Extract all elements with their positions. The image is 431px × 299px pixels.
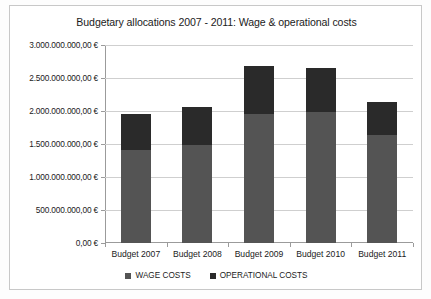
y-axis-label: 0,00 €: [76, 238, 98, 248]
y-axis-label: 500.000.000,00 €: [36, 205, 98, 215]
bar-segment-wage-costs[interactable]: [121, 150, 151, 243]
chart-legend: WAGE COSTS OPERATIONAL COSTS: [10, 271, 423, 280]
bar-segment-operational-costs[interactable]: [306, 68, 336, 112]
x-axis-tick: [167, 243, 168, 247]
legend-label-operational-costs: OPERATIONAL COSTS: [220, 271, 308, 280]
x-axis-label: Budget 2009: [235, 249, 284, 259]
chart-page: Budgetary allocations 2007 - 2011: Wage …: [0, 0, 431, 299]
y-axis-label: 1.500.000.000,00 €: [29, 139, 98, 149]
y-axis-tick: [101, 78, 105, 79]
x-axis-label: Budget 2007: [111, 249, 160, 259]
legend-item-wage-costs: WAGE COSTS: [125, 271, 190, 280]
bar-segment-wage-costs[interactable]: [182, 145, 212, 243]
y-axis-tick: [101, 144, 105, 145]
legend-item-operational-costs: OPERATIONAL COSTS: [210, 271, 308, 280]
gridline: [105, 45, 413, 46]
bar-segment-wage-costs[interactable]: [367, 135, 397, 243]
y-axis-tick: [101, 210, 105, 211]
y-axis-tick: [101, 45, 105, 46]
y-axis-tick: [101, 177, 105, 178]
plot-area: 0,00 €500.000.000,00 €1.000.000.000,00 €…: [105, 45, 413, 243]
bar-segment-operational-costs[interactable]: [182, 107, 212, 145]
x-axis-tick: [228, 243, 229, 247]
bar-segment-operational-costs[interactable]: [121, 114, 151, 150]
chart-frame: Budgetary allocations 2007 - 2011: Wage …: [9, 5, 422, 290]
bar-segment-operational-costs[interactable]: [367, 102, 397, 135]
x-axis-tick: [290, 243, 291, 247]
x-axis-tick: [351, 243, 352, 247]
y-axis-label: 2.500.000.000,00 €: [29, 73, 98, 83]
bar-segment-operational-costs[interactable]: [244, 66, 274, 114]
legend-swatch-wage-costs: [125, 273, 131, 279]
x-axis-label: Budget 2008: [173, 249, 222, 259]
y-axis-label: 1.000.000.000,00 €: [29, 172, 98, 182]
x-axis-tick: [413, 243, 414, 247]
x-axis-label: Budget 2010: [296, 249, 345, 259]
x-axis-tick: [105, 243, 106, 247]
legend-swatch-operational-costs: [210, 273, 216, 279]
y-axis-label: 2.000.000.000,00 €: [29, 106, 98, 116]
y-axis-label: 3.000.000.000,00 €: [29, 40, 98, 50]
bar-segment-wage-costs[interactable]: [244, 114, 274, 243]
bar-segment-wage-costs[interactable]: [306, 112, 336, 243]
chart-title: Budgetary allocations 2007 - 2011: Wage …: [10, 16, 423, 28]
x-axis-label: Budget 2011: [358, 249, 406, 259]
y-axis-tick: [101, 111, 105, 112]
legend-label-wage-costs: WAGE COSTS: [135, 271, 190, 280]
